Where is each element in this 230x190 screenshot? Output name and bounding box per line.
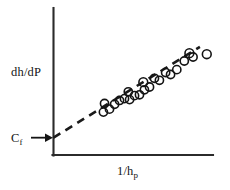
intercept-label: Cf: [11, 131, 23, 147]
scatter-markers: [99, 49, 211, 116]
data-point-marker: [135, 91, 143, 99]
fit-line-dashed: [54, 47, 200, 138]
plot-canvas: [0, 0, 230, 190]
x-axis-label: 1/hp: [117, 164, 138, 180]
axes-group: [53, 8, 214, 156]
data-point-marker: [202, 50, 211, 59]
x-axis-label-main: 1/h: [117, 164, 134, 178]
intercept-label-main: C: [11, 131, 20, 145]
intercept-label-subscript: f: [20, 137, 23, 147]
intercept-arrow-head: [45, 133, 53, 142]
data-point-marker: [180, 57, 188, 65]
intercept-arrow: [31, 133, 53, 142]
data-point-marker: [162, 68, 170, 76]
y-axis-label: dh/dP: [11, 65, 41, 80]
data-point-marker: [155, 76, 163, 84]
x-axis-label-subscript: p: [134, 170, 139, 180]
data-point-marker: [173, 66, 181, 74]
fit-line-group: [54, 47, 200, 138]
figure-panel: dh/dP 1/hp Cf: [0, 0, 230, 190]
